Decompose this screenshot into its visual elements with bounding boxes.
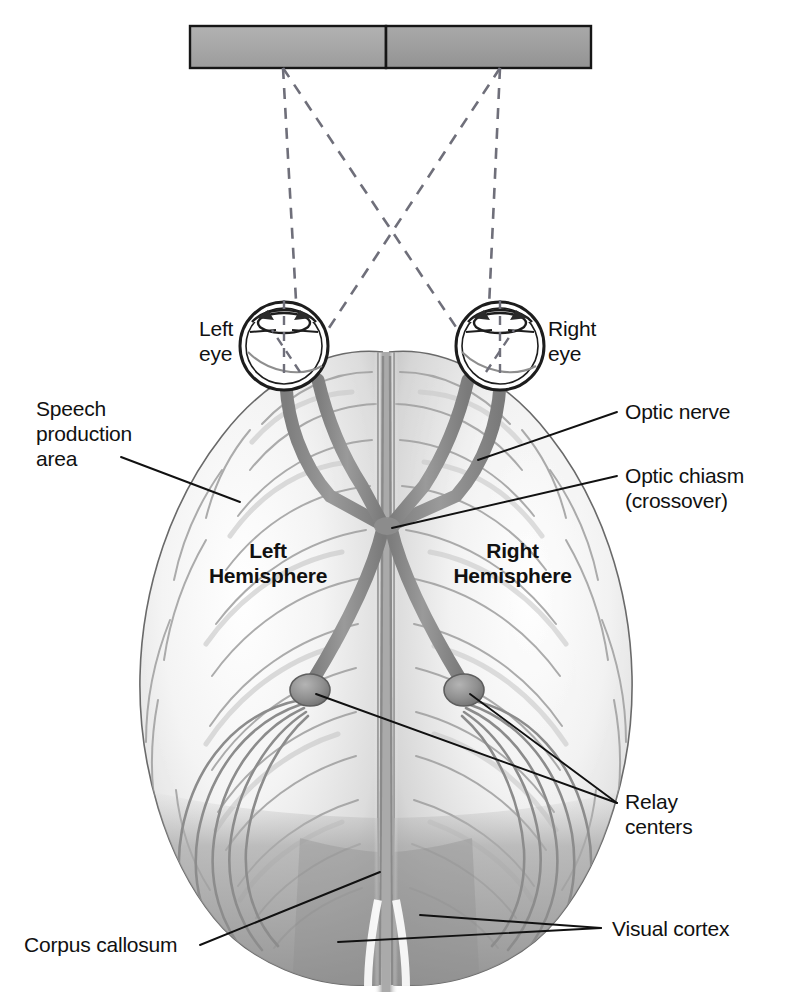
label-right-eye: Right eye	[548, 316, 596, 366]
eye-icon-left	[240, 302, 328, 390]
label-relay-centers: Relay centers	[625, 789, 692, 839]
label-left-hemisphere: Left Hemisphere	[203, 538, 333, 588]
brain	[140, 351, 632, 992]
eye-icon-right	[456, 302, 544, 390]
longitudinal-fissure	[374, 352, 398, 992]
label-visual-cortex: Visual cortex	[612, 916, 729, 941]
diagram-canvas: Left eye Right eye Speech production are…	[0, 0, 785, 994]
label-right-hemisphere: Right Hemisphere	[440, 538, 585, 588]
label-speech-production-area: Speech production area	[36, 396, 132, 471]
bar-right-half	[386, 26, 591, 68]
optic-chiasm-icon	[374, 517, 400, 535]
label-left-eye: Left eye	[199, 316, 233, 366]
label-optic-nerve: Optic nerve	[625, 399, 730, 424]
label-corpus-callosum: Corpus callosum	[24, 932, 177, 957]
label-optic-chiasm: Optic chiasm (crossover)	[625, 463, 744, 513]
bar-left-half	[190, 26, 386, 68]
visual-field-bar	[190, 26, 591, 68]
relay-center-icon-right	[444, 674, 484, 706]
relay-center-icon-left	[290, 674, 330, 706]
